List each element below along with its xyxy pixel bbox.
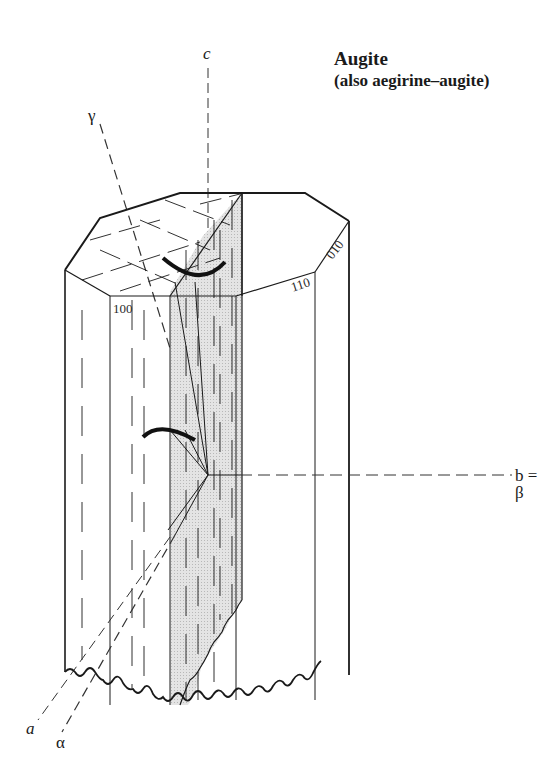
alpha-axis-label: α [56, 734, 65, 751]
c-axis-label: c [203, 45, 211, 62]
a-axis-label: a [26, 720, 35, 737]
augite-crystal-diagram: Augite (also aegirine–augite) c γ b = β … [0, 0, 549, 782]
face-100-label: 100 [113, 302, 133, 315]
b-beta-axis-label: b = β [515, 467, 549, 501]
mineral-subtitle: (also aegirine–augite) [334, 70, 489, 91]
a-axis-line [38, 537, 170, 720]
title-block: Augite (also aegirine–augite) [334, 48, 489, 91]
crystal-drawing [0, 0, 549, 782]
mineral-title: Augite [334, 48, 489, 70]
alpha-axis-line [62, 535, 175, 732]
gamma-axis-label: γ [88, 107, 96, 124]
